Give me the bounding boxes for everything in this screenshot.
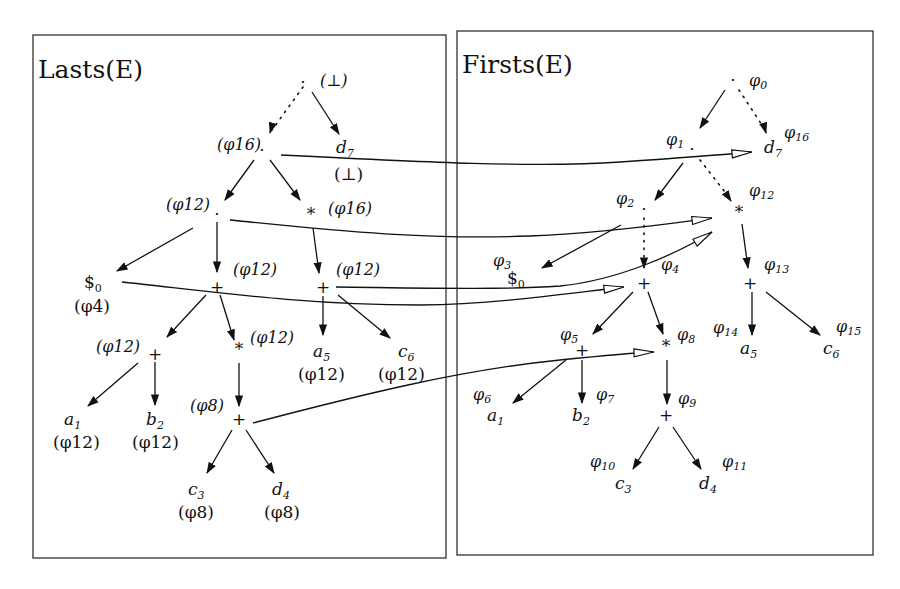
leaf-c3: c3	[615, 473, 632, 496]
leaf-c3-annotation: φ10	[590, 452, 615, 473]
edge	[225, 160, 254, 200]
leaf-a1-annotation: (φ12)	[53, 432, 100, 452]
edge	[513, 360, 566, 403]
phi13-annotation: φ13	[764, 255, 789, 276]
leaf-dollar0-annotation: φ3	[493, 251, 511, 272]
firsts-panel-title: Firsts(E)	[462, 50, 573, 79]
leaf-a5: a5	[313, 341, 330, 364]
edge	[542, 225, 621, 268]
edge	[633, 427, 659, 469]
leaf-b2-annotation: (φ12)	[132, 432, 179, 452]
star-annotation: (φ16)	[328, 199, 372, 218]
link-phi8-to-star	[253, 352, 654, 423]
phi2-annotation: φ2	[616, 189, 634, 210]
leaf-d7-annotation: φ16	[784, 123, 809, 144]
plus-node: +	[316, 277, 330, 297]
edge	[207, 430, 232, 473]
edge	[312, 92, 339, 134]
edge	[338, 295, 390, 338]
edge-arrowhead	[764, 126, 766, 133]
star-node: *	[735, 202, 744, 222]
leaf-d7: d7	[336, 137, 354, 160]
edge	[167, 295, 206, 337]
firsts-panel-border	[457, 31, 873, 555]
edge-dotted	[700, 160, 728, 196]
leaf-b2-annotation: φ7	[596, 385, 614, 406]
plus-node: +	[637, 273, 651, 293]
phi0-annotation: φ0	[749, 71, 767, 92]
plus-annotation: (φ12)	[96, 337, 140, 356]
root-concat-node: ·	[300, 72, 305, 92]
edge	[313, 228, 319, 273]
edge	[673, 427, 701, 469]
leaf-d7-annotation: (⊥)	[334, 164, 363, 184]
leaf-c6: c6	[823, 338, 840, 361]
leaf-a1: a1	[487, 405, 504, 428]
leaf-a5: a5	[740, 338, 757, 361]
edge	[648, 292, 663, 334]
root-concat-node: ·	[730, 70, 735, 90]
leaf-b2: b2	[146, 409, 164, 432]
edge	[220, 295, 234, 340]
leaf-b2: b2	[572, 405, 590, 428]
edge	[117, 228, 193, 271]
edge	[655, 163, 683, 200]
leaf-a1: a1	[64, 409, 81, 432]
edge-dotted	[739, 90, 764, 128]
leaf-c3: c3	[188, 479, 205, 502]
concat-node: ·	[689, 139, 694, 159]
edge-arrowhead	[727, 195, 731, 201]
leaf-c6-annotation: φ15	[836, 317, 861, 338]
edge	[270, 160, 300, 200]
plus-node: +	[743, 273, 757, 293]
leaf-c6-annotation: (φ12)	[378, 364, 425, 384]
leaf-dollar0-annotation: (φ4)	[74, 296, 110, 316]
leaf-a1-annotation: φ6	[473, 385, 491, 406]
edge	[742, 224, 748, 268]
plus-node: +	[659, 405, 673, 425]
plus-node: +	[232, 409, 246, 429]
leaf-c6: c6	[398, 341, 415, 364]
leaf-d7: d7	[764, 137, 782, 160]
lasts-panel-title: Lasts(E)	[38, 55, 143, 84]
phi5-annotation: φ5	[560, 325, 578, 346]
plus-node: +	[148, 344, 162, 364]
edge	[88, 363, 138, 406]
concat-annotation: (φ12)	[166, 195, 210, 214]
plus-annotation: (φ12)	[233, 260, 277, 279]
lasts-firsts-diagram: Lasts(E) Firsts(E) · (⊥) · (φ16) d7 (⊥)	[0, 0, 900, 589]
phi4-annotation: φ4	[661, 255, 679, 276]
firsts-panel: Firsts(E)	[457, 31, 873, 555]
leaf-a5-annotation: φ14	[713, 318, 738, 339]
leaf-d4-annotation: (φ8)	[264, 502, 300, 522]
edge	[246, 430, 274, 473]
edge-dotted	[272, 87, 303, 130]
phi8-annotation: φ8	[677, 325, 695, 346]
leaf-d4: d4	[699, 473, 717, 496]
star-node: *	[307, 204, 316, 224]
link-phi12-concat-to-star	[230, 218, 712, 237]
leaf-a5-annotation: (φ12)	[298, 364, 345, 384]
edge	[700, 90, 725, 128]
edge	[593, 292, 633, 334]
plus-annotation: (φ8)	[190, 396, 224, 415]
link-dollar0-to-phi4	[122, 282, 624, 305]
leaf-dollar0: $0	[84, 272, 102, 295]
concat-node: ·	[641, 199, 646, 219]
star-node: *	[235, 339, 244, 359]
lasts-tree: · (⊥) · (φ16) d7 (⊥) · (φ12) * (φ16) $0 …	[53, 71, 425, 522]
leaf-c3-annotation: (φ8)	[178, 502, 214, 522]
star-annotation: (φ12)	[250, 328, 294, 347]
plus-annotation: (φ12)	[336, 260, 380, 279]
concat-node: ·	[214, 204, 219, 224]
phi12-annotation: φ12	[749, 181, 774, 202]
star-node: *	[662, 336, 671, 356]
phi9-annotation: φ9	[678, 389, 696, 410]
firsts-tree: · φ0 · φ1 d7 φ16 · φ2 * φ12 $0 φ3 + φ4 +…	[473, 70, 861, 496]
phi1-annotation: φ1	[666, 130, 684, 151]
concat-annotation: (φ16)	[217, 135, 261, 154]
edge	[766, 292, 820, 335]
leaf-d4: d4	[272, 479, 290, 502]
root-annotation: (⊥)	[320, 71, 348, 90]
leaf-d4-annotation: φ11	[722, 452, 747, 473]
